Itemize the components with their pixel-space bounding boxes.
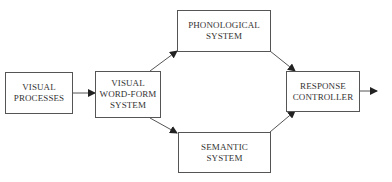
- node-label-line: SYSTEM: [110, 100, 146, 111]
- node-label-line: VISUAL: [111, 78, 145, 89]
- node-visual-word-form-system: VISUAL WORD-FORM SYSTEM: [95, 71, 161, 118]
- arrow-semantic-to-response: [270, 111, 295, 132]
- node-label-line: SEMANTIC: [201, 142, 248, 153]
- arrow-phonological-to-response: [270, 51, 295, 71]
- node-label-line: PROCESSES: [14, 93, 64, 104]
- node-phonological-system: PHONOLOGICAL SYSTEM: [177, 10, 271, 52]
- node-label-line: PHONOLOGICAL: [188, 20, 260, 31]
- arrow-wordform-to-semantic: [150, 118, 177, 133]
- node-semantic-system: SEMANTIC SYSTEM: [178, 132, 271, 173]
- node-label-line: SYSTEM: [206, 153, 242, 164]
- node-response-controller: RESPONSE CONTROLLER: [286, 71, 360, 112]
- node-label-line: SYSTEM: [206, 31, 242, 42]
- node-label-line: RESPONSE: [300, 81, 346, 92]
- node-label-line: WORD-FORM: [100, 89, 157, 100]
- node-label-line: CONTROLLER: [293, 92, 354, 103]
- node-label-line: VISUAL: [22, 82, 56, 93]
- arrow-wordform-to-phonological: [150, 51, 177, 71]
- diagram-canvas: VISUAL PROCESSES VISUAL WORD-FORM SYSTEM…: [0, 0, 392, 182]
- node-visual-processes: VISUAL PROCESSES: [5, 72, 73, 114]
